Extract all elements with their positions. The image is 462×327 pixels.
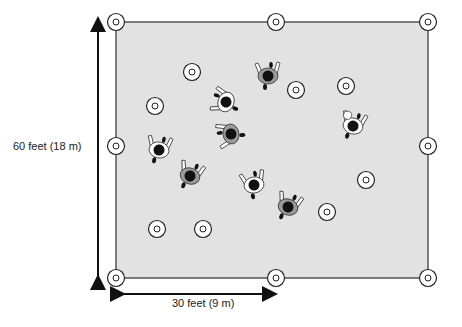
cone-icon: [108, 14, 125, 31]
cone-icon: [195, 221, 212, 238]
cone-icon: [268, 270, 285, 287]
cone-icon: [108, 138, 125, 155]
cone-icon: [358, 172, 375, 189]
cone-icon: [149, 221, 166, 238]
cone-icon: [147, 98, 164, 115]
field-diagram: [0, 0, 462, 327]
cone-icon: [319, 204, 336, 221]
cone-icon: [420, 14, 437, 31]
cone-icon: [268, 14, 285, 31]
cone-icon: [108, 270, 125, 287]
cone-icon: [420, 270, 437, 287]
cone-icon: [338, 78, 355, 95]
cone-icon: [184, 64, 201, 81]
cone-icon: [420, 138, 437, 155]
height-label: 60 feet (18 m): [13, 140, 81, 152]
width-label: 30 feet (9 m): [172, 297, 234, 309]
cone-icon: [288, 82, 305, 99]
